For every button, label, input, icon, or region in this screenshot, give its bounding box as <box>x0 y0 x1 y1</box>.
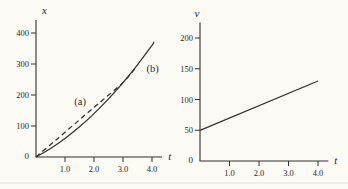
x-tick-label: 4.0 <box>313 168 324 178</box>
x-tick-label: 2.0 <box>89 164 100 174</box>
y-tick-label: 150 <box>180 64 193 74</box>
y-tick-label: 400 <box>16 28 29 38</box>
velocity-time-origin-label: 0 <box>189 155 194 165</box>
velocity-time-chart: 501001502001.02.03.04.00vt <box>180 7 338 178</box>
y-tick-label: 50 <box>185 125 194 135</box>
position-time-chart: 1002003004001.02.03.04.00xt(a)(b) <box>16 4 172 174</box>
y-tick-label: 200 <box>180 33 193 43</box>
position-time-origin-label: 0 <box>25 151 30 161</box>
position-time-series-b <box>36 42 154 157</box>
y-tick-label: 100 <box>16 121 29 131</box>
position-time-x-axis-label: t <box>168 150 172 162</box>
x-tick-label: 3.0 <box>118 164 129 174</box>
x-tick-label: 4.0 <box>147 164 158 174</box>
y-tick-label: 200 <box>16 90 29 100</box>
x-tick-label: 1.0 <box>60 164 71 174</box>
figure: 1002003004001.02.03.04.00xt(a)(b)5010015… <box>0 0 348 189</box>
x-tick-label: 3.0 <box>283 168 294 178</box>
x-tick-label: 2.0 <box>254 168 265 178</box>
velocity-time-axes <box>200 23 328 161</box>
position-time-annotation-b: (b) <box>146 63 159 75</box>
velocity-time-y-axis-label: v <box>195 7 200 19</box>
figure-canvas: 1002003004001.02.03.04.00xt(a)(b)5010015… <box>0 0 348 189</box>
position-time-y-axis-label: x <box>41 4 47 16</box>
velocity-time-series-vt <box>200 81 318 130</box>
y-tick-label: 300 <box>16 59 29 69</box>
y-tick-label: 100 <box>180 95 193 105</box>
position-time-axes <box>36 20 162 157</box>
x-tick-label: 1.0 <box>224 168 235 178</box>
position-time-series-a <box>36 69 135 157</box>
position-time-annotation-a: (a) <box>74 96 86 108</box>
velocity-time-x-axis-label: t <box>334 154 338 166</box>
